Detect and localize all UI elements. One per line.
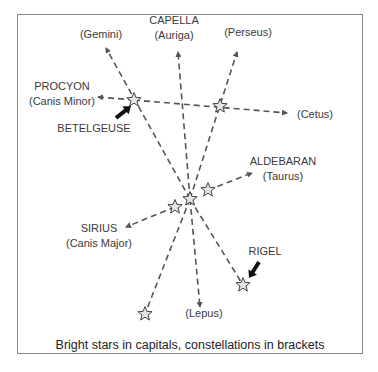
- label-aldebaran: ALDEBARAN(Taurus): [250, 155, 317, 182]
- caption: Bright stars in capitals, constellations…: [56, 338, 325, 352]
- star-icon-bellatrix: [213, 99, 227, 113]
- label-pointers: [115, 106, 261, 278]
- pointer-lines: [98, 48, 287, 314]
- betelgeuse-pointer-arrow-icon: [115, 106, 131, 120]
- dashed-line: [190, 199, 243, 285]
- label-rigel: RIGEL: [248, 245, 281, 257]
- dashed-line: [178, 52, 190, 199]
- label-procyon: PROCYON(Canis Minor): [29, 80, 95, 107]
- orion-star-diagram: (Gemini)CAPELLA(Auriga)(Perseus)PROCYON(…: [0, 0, 378, 372]
- star-icon-belt-east: [201, 183, 215, 197]
- dashed-line: [190, 199, 200, 307]
- dashed-line: [134, 100, 287, 113]
- label-sirius: SIRIUS(Canis Major): [66, 222, 132, 249]
- star-icon-saiph: [138, 307, 152, 321]
- star-icon-betelgeuse: [127, 93, 141, 107]
- star-icon-rigel: [236, 278, 250, 292]
- label-gemini: (Gemini): [80, 28, 122, 40]
- rigel-pointer-arrow-icon: [248, 261, 260, 278]
- label-cetus: (Cetus): [297, 108, 333, 120]
- label-lepus: (Lepus): [185, 307, 222, 319]
- dashed-line: [126, 207, 175, 227]
- labels: (Gemini)CAPELLA(Auriga)(Perseus)PROCYON(…: [29, 14, 333, 319]
- label-betelgeuse: BETELGEUSE: [57, 122, 130, 134]
- label-perseus: (Perseus): [224, 26, 272, 38]
- label-capella: CAPELLA(Auriga): [149, 14, 199, 41]
- dashed-line: [190, 52, 237, 199]
- stars: [127, 93, 250, 321]
- star-icon-belt-west: [168, 200, 182, 214]
